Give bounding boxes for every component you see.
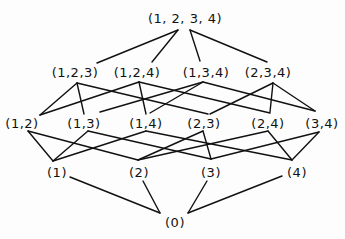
edge-234-34 xyxy=(273,83,315,111)
edge-3-0 xyxy=(188,181,207,213)
edge-234-23 xyxy=(210,83,273,114)
edge-14-4 xyxy=(146,131,292,160)
node-14: (1,4) xyxy=(129,117,162,130)
node-24: (2,4) xyxy=(251,117,284,130)
node-23: (2,3) xyxy=(187,117,220,130)
edge-134-34 xyxy=(203,82,315,111)
edge-34-4 xyxy=(292,132,319,160)
edge-layer xyxy=(0,0,345,239)
edge-1234-234 xyxy=(190,30,267,62)
node-13: (1,3) xyxy=(67,117,100,130)
edge-124-12 xyxy=(40,82,139,115)
edge-1234-123 xyxy=(97,30,178,63)
node-134: (1,3,4) xyxy=(183,66,230,79)
edge-123-12 xyxy=(40,83,77,115)
node-2: (2) xyxy=(129,166,149,179)
edge-14-1 xyxy=(53,131,146,161)
edge-2-0 xyxy=(143,181,160,213)
edge-12-1 xyxy=(28,131,53,161)
edge-24-2 xyxy=(138,131,268,160)
node-3: (3) xyxy=(201,166,221,179)
node-1234: (1, 2, 3, 4) xyxy=(148,12,222,25)
edge-234-24 xyxy=(270,83,273,112)
hasse-diagram: (1, 2, 3, 4)(1,2,3)(1,2,4)(1,3,4)(2,3,4)… xyxy=(0,0,345,239)
node-123: (1,2,3) xyxy=(52,66,99,79)
edge-4-0 xyxy=(188,176,282,213)
edge-123-13 xyxy=(77,83,84,114)
node-124: (1,2,4) xyxy=(114,66,161,79)
edge-1-0 xyxy=(70,177,160,213)
node-4: (4) xyxy=(287,166,307,179)
node-0: (0) xyxy=(165,216,185,229)
node-12: (1,2) xyxy=(5,117,38,130)
edge-134-13 xyxy=(100,82,203,112)
node-234: (2,3,4) xyxy=(245,66,292,79)
node-34: (3,4) xyxy=(305,117,338,130)
node-1: (1) xyxy=(47,166,67,179)
edge-1234-134 xyxy=(190,30,200,61)
